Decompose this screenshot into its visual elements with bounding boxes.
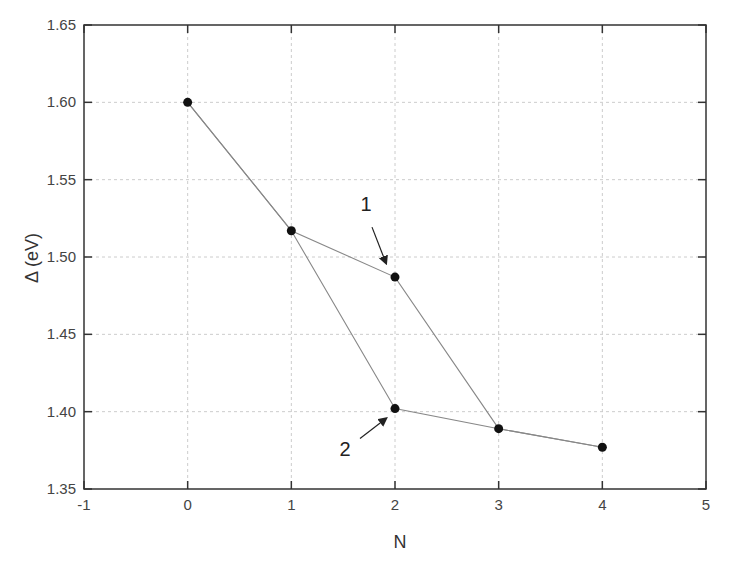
y-tick-label: 1.50 [47, 248, 76, 265]
data-point [598, 443, 607, 452]
x-tick-label: 1 [287, 496, 295, 513]
y-axis-title: Δ (eV) [22, 233, 42, 283]
x-tick-label: 5 [702, 496, 710, 513]
y-tick-label: 1.45 [47, 325, 76, 342]
data-point [391, 404, 400, 413]
y-tick-label: 1.65 [47, 16, 76, 33]
annotation-label-2: 2 [339, 438, 350, 460]
x-tick-label: -1 [77, 496, 90, 513]
annotation-arrow-1 [372, 227, 386, 263]
x-tick-label: 4 [598, 496, 606, 513]
y-tick-label: 1.40 [47, 403, 76, 420]
data-point [183, 98, 192, 107]
x-axis-ticks: -1012345 [77, 25, 710, 513]
data-point [494, 424, 503, 433]
annotation-label-1: 1 [360, 193, 371, 215]
annotations: 12 [339, 193, 386, 459]
x-tick-label: 0 [183, 496, 191, 513]
data-point [287, 226, 296, 235]
y-tick-label: 1.55 [47, 171, 76, 188]
annotation-arrow-2 [360, 419, 386, 439]
x-axis-title: N [394, 532, 407, 552]
y-tick-label: 1.60 [47, 93, 76, 110]
line-chart: -1012345 1.351.401.451.501.551.601.65 12… [0, 0, 730, 563]
x-tick-label: 2 [391, 496, 399, 513]
data-point [391, 273, 400, 282]
grid-lines [84, 25, 706, 489]
y-tick-label: 1.35 [47, 480, 76, 497]
x-tick-label: 3 [494, 496, 502, 513]
